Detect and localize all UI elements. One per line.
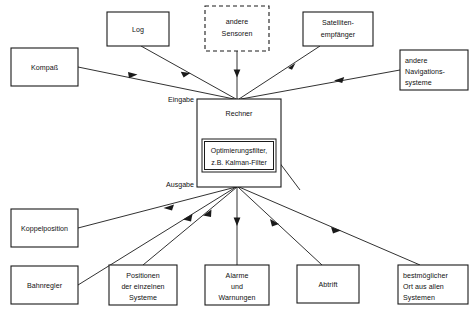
node-kompass[interactable]: Kompaß xyxy=(11,48,78,86)
node-andere-navigationssysteme[interactable]: andere Navigations- systeme xyxy=(400,50,468,90)
filter-line-2: z.B. Kalman-Filter xyxy=(211,159,267,166)
node-satellit-line-1: Satelliten- xyxy=(322,19,355,27)
node-log-line-1: Log xyxy=(132,26,144,34)
node-sensoren-line-2: Sensoren xyxy=(222,30,253,38)
node-alarme-line-1: Alarme xyxy=(226,272,249,280)
node-bestmoeglich-line-1: bestmöglicher xyxy=(403,272,448,280)
node-koppelposition[interactable]: Koppelposition xyxy=(11,209,78,247)
node-log[interactable]: Log xyxy=(107,12,169,46)
node-abtrift[interactable]: Abtrift xyxy=(297,265,359,303)
node-rechner[interactable]: Rechner Optimierungsfilter, z.B. Kalman-… xyxy=(197,99,281,187)
edge-kompass-to-rechner xyxy=(78,67,234,99)
diagram-root: Rechner Optimierungsfilter, z.B. Kalman-… xyxy=(0,0,473,314)
edge-satellit-to-rechner xyxy=(239,46,320,99)
node-positionen-line-1: Positionen xyxy=(126,272,160,280)
node-bestmoeglich-line-2: Ort aus allen xyxy=(403,283,444,291)
node-optimierungsfilter[interactable]: Optimierungsfilter, z.B. Kalman-Filter xyxy=(202,139,276,172)
edge-log-to-rechner xyxy=(141,46,236,99)
diagram-canvas: Rechner Optimierungsfilter, z.B. Kalman-… xyxy=(0,0,473,314)
node-alarme-warnungen[interactable]: Alarme und Warnungen xyxy=(205,265,269,305)
node-navsysteme-line-1: andere xyxy=(405,57,427,65)
filter-line-1: Optimierungsfilter, xyxy=(211,147,267,155)
node-positionen-line-3: Systeme xyxy=(129,294,157,302)
node-bestmoeglich-line-3: Systemen xyxy=(403,294,435,302)
node-navsysteme-line-2: Navigations- xyxy=(405,68,446,76)
node-abtrift-line-1: Abtrift xyxy=(319,281,338,289)
node-alarme-line-3: Warnungen xyxy=(219,294,256,302)
edge-rechner-to-alarme xyxy=(234,187,241,265)
node-kompass-line-1: Kompaß xyxy=(31,64,59,72)
node-navsysteme-line-3: systeme xyxy=(405,79,432,87)
port-label-eingabe: Eingabe xyxy=(168,96,194,104)
node-andere-sensoren[interactable]: andere Sensoren xyxy=(205,6,269,51)
edge-navsysteme-to-rechner xyxy=(241,70,400,99)
node-bahnregler-line-1: Bahnregler xyxy=(27,282,63,290)
node-sensoren-line-1: andere xyxy=(226,18,248,26)
input-edges xyxy=(78,46,400,99)
node-satellit-line-2: empfänger xyxy=(321,31,356,39)
node-koppelposition-line-1: Koppelposition xyxy=(21,225,68,233)
edge-rechner-to-bestmoeglich xyxy=(239,187,420,265)
node-bahnregler[interactable]: Bahnregler xyxy=(11,266,78,304)
node-alarme-line-2: und xyxy=(231,283,243,291)
node-bestmoeglicher-ort[interactable]: bestmöglicher Ort aus allen Systemen xyxy=(398,265,468,304)
node-positionen[interactable]: Positionen der einzelnen Systeme xyxy=(109,265,177,305)
node-positionen-line-2: der einzelnen xyxy=(121,283,164,291)
edge-rechner-to-abtrift xyxy=(238,187,322,265)
node-satellitenempfaenger[interactable]: Satelliten- empfänger xyxy=(303,12,373,46)
edge-sensoren-to-rechner xyxy=(234,51,241,99)
port-label-ausgabe: Ausgabe xyxy=(166,181,194,189)
rechner-title: Rechner xyxy=(226,110,253,118)
